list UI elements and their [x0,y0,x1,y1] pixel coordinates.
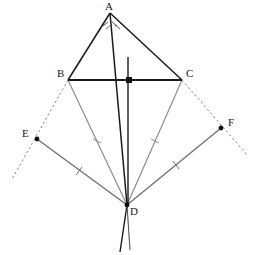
segment-CD [127,80,182,205]
right-angle-square-marker [126,77,132,83]
point-marker-group [35,77,224,207]
segment-ED [37,139,127,205]
vertex-label-C: C [186,68,193,79]
segment-AC [110,13,182,80]
segment-AD [110,13,127,205]
vertex-label-D: D [130,206,138,217]
segment-AB [68,13,110,80]
dashed-ray-C-F-extended [182,80,248,156]
angle-mark-A-inner-left [106,25,111,29]
dashed-ray-group [12,80,248,179]
point-marker-E [35,137,40,142]
vertex-label-E: E [22,128,29,139]
gray-segment-group [37,80,221,205]
vertex-label-F: F [228,117,234,128]
segment-FD [127,128,221,205]
point-marker-F [219,126,224,131]
vertical-axis-lower-left [120,205,127,252]
angle-mark-A-right [112,22,117,26]
tick-mark-FD [173,161,179,169]
triangle-group [68,13,182,205]
point-marker-D [125,203,130,208]
dashed-ray-B-E-extended [12,80,68,179]
vertex-label-A: A [105,1,113,12]
vertex-label-B: B [57,68,64,79]
geometry-figure: A B C D E F [0,0,258,255]
angle-mark-A-inner-right [115,25,120,29]
vertical-axis-group [120,57,130,252]
geometry-canvas [0,0,258,255]
